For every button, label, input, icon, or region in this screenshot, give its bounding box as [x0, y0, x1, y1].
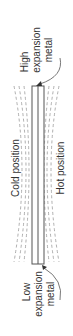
high-label-line1: High — [19, 52, 30, 73]
low-label-line3: metal — [45, 282, 56, 306]
hot-position-label: Hot position — [55, 142, 66, 195]
high-label-line2: expansion — [31, 27, 42, 73]
low-label-line2: expansion — [33, 271, 44, 317]
high-label-line3: metal — [43, 38, 54, 62]
bimetallic-strip — [32, 86, 44, 264]
low-label-line1: Low — [21, 282, 32, 301]
bimetallic-strip-diagram: High expansion metal Cold position Hot p… — [0, 0, 73, 336]
cold-position-label: Cold position — [10, 139, 21, 197]
